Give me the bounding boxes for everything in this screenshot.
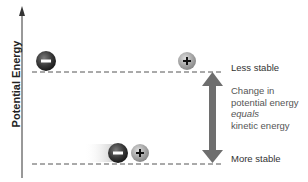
description-line-1: Change in [231, 85, 299, 97]
description-line-4: kinetic energy [231, 120, 299, 132]
positive-ion-bonded [131, 144, 149, 162]
negative-ion-bonded [108, 143, 128, 163]
description-line-3: equals [231, 108, 299, 120]
negative-ion-separated [36, 51, 56, 71]
energy-change-arrow-icon [202, 72, 223, 163]
positive-ion-separated [178, 52, 196, 70]
axis-arrowhead-icon [19, 6, 25, 16]
description-line-2: potential energy [231, 97, 299, 109]
y-axis-label: Potential Energy [10, 34, 22, 134]
lower-level-label: More stable [231, 153, 281, 165]
arrow-description: Change in potential energy equals kineti… [231, 85, 299, 131]
upper-level-label: Less stable [231, 62, 279, 74]
